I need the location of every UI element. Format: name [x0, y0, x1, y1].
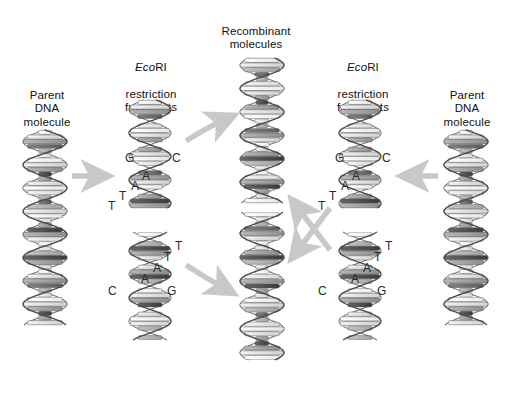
helix-parent-dna-left — [23, 130, 67, 325]
base-letter-bottom-left-1: T — [164, 251, 171, 263]
base-letter-bottom-right-0: T — [385, 240, 392, 252]
base-letter-bottom-right-3: A — [351, 273, 359, 285]
base-letter-top-right-4: T — [329, 190, 336, 202]
base-letter-top-left-0: G — [125, 152, 134, 164]
base-letter-top-right-2: A — [352, 170, 360, 182]
arrow-fragment-bottomleft-to-recombinant — [186, 265, 224, 288]
helix-parent-dna-right — [444, 130, 488, 325]
base-letter-top-right-1: C — [382, 152, 391, 164]
diagram-graphics — [0, 0, 511, 405]
arrow-fragment-topleft-to-recombinant — [186, 120, 224, 141]
base-letter-bottom-left-5: G — [167, 285, 176, 297]
base-letter-bottom-left-4: C — [108, 285, 117, 297]
base-letter-bottom-left-0: T — [175, 240, 182, 252]
helix-recombinant-upper — [240, 58, 284, 203]
helix-recombinant-lower — [240, 212, 284, 360]
base-letter-bottom-left-2: A — [153, 262, 161, 274]
base-letter-bottom-right-1: T — [374, 251, 381, 263]
base-letter-top-left-5: T — [108, 200, 115, 212]
diagram-canvas: Parent DNA molecule EcoRI restriction fr… — [0, 0, 511, 405]
base-letter-top-right-3: A — [341, 180, 349, 192]
base-letter-top-right-5: T — [318, 200, 325, 212]
base-letter-top-left-3: A — [131, 180, 139, 192]
base-letter-bottom-left-3: A — [141, 273, 149, 285]
base-letter-top-right-0: G — [335, 152, 344, 164]
base-letter-top-left-1: C — [172, 152, 181, 164]
base-letter-bottom-right-4: C — [318, 285, 327, 297]
base-letter-bottom-right-2: A — [363, 262, 371, 274]
base-letter-top-left-4: T — [119, 190, 126, 202]
base-letter-top-left-2: A — [142, 170, 150, 182]
helix-fragment-bottom-right — [339, 232, 381, 340]
base-letter-bottom-right-5: G — [377, 285, 386, 297]
helix-fragment-bottom-left — [129, 232, 171, 340]
